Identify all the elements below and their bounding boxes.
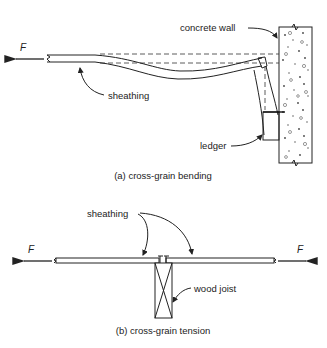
force-label-right: F [297, 244, 304, 255]
caption-b: (b) cross-grain tension [116, 325, 211, 336]
sheathing-leader [80, 68, 104, 95]
figure-a-cross-grain-bending: F concrete wall sheathing ledger (a) cro… [16, 22, 312, 181]
sheathing-right [166, 258, 274, 263]
wood-joist [155, 263, 172, 318]
force-label-left: F [28, 244, 35, 255]
figure-b-cross-grain-tension: F F sheathing wood joist (b) cross-grain… [24, 208, 306, 336]
ledger-label: ledger [200, 140, 226, 151]
force-label: F [20, 42, 27, 53]
sheathing-leader-left [138, 214, 148, 255]
wood-joist-label: wood joist [193, 283, 237, 294]
sheathing-label: sheathing [108, 90, 149, 101]
concrete-wall-leader [248, 28, 277, 38]
concrete-wall [279, 24, 312, 166]
wood-joist-leader [173, 288, 191, 302]
sheathing-label: sheathing [87, 208, 128, 219]
sheathing-bent [47, 55, 262, 79]
diagram-canvas: F concrete wall sheathing ledger (a) cro… [0, 0, 327, 348]
ledger-leader [231, 135, 262, 146]
sheathing-left [56, 258, 159, 263]
concrete-wall-label: concrete wall [180, 22, 235, 33]
caption-a: (a) cross-grain bending [114, 170, 212, 181]
